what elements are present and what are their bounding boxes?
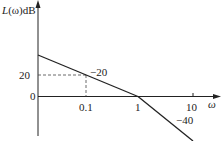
segment-slope-20 (38, 55, 138, 97)
x-tick-10: 10 (186, 101, 198, 113)
x-tick-1: 1 (135, 101, 141, 113)
y-tick-20: 20 (19, 69, 31, 81)
slope-label-20: −20 (90, 66, 108, 78)
slope-label-40: −40 (176, 114, 194, 126)
y-tick-0: 0 (30, 90, 36, 102)
x-tick-0.1: 0.1 (79, 101, 93, 113)
bode-plot: L(ω)dB 20 0 0.1 1 10 ω −20 −40 (0, 0, 223, 141)
x-axis-label: ω (208, 98, 216, 110)
y-axis-arrow-icon (36, 0, 41, 8)
y-axis-label: L(ω)dB (1, 4, 36, 17)
